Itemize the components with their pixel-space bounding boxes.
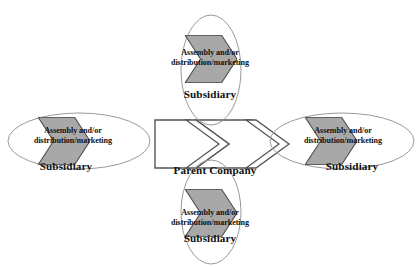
subsidiary-left-chevron-icon [38,117,90,165]
subsidiary-top-chevron-icon [185,35,237,83]
subsidiary-bottom-chevron-icon [185,189,237,237]
subsidiary-left-node[interactable] [8,113,150,169]
parent-chevron-right-notch [246,120,289,168]
diagram-canvas: Assembly and/or distribution/marketing S… [0,0,418,267]
subsidiary-right-node[interactable] [270,113,414,169]
diagram-graphics [0,0,418,267]
subsidiary-bottom-node[interactable] [181,160,241,264]
parent-chevron-left [155,120,223,168]
subsidiary-top-node[interactable] [181,15,241,125]
subsidiary-right-chevron-icon [305,117,357,165]
parent-company-node[interactable] [155,120,289,168]
